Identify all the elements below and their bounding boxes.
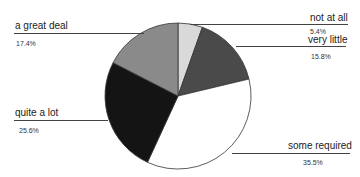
- label-quite-a-lot: quite a lot: [15, 107, 58, 118]
- pie-slices: [105, 23, 251, 169]
- label-a-great-deal: a great deal: [15, 20, 68, 31]
- label-some-required: some required: [288, 140, 352, 151]
- percent-quite-a-lot: 25.6%: [19, 127, 39, 134]
- callout-line-not-at-all: [190, 24, 348, 25]
- percent-a-great-deal: 17.4%: [16, 40, 36, 47]
- callout-line-some-required: [232, 153, 350, 154]
- label-not-at-all: not at all: [310, 12, 348, 23]
- label-very-little: very little: [308, 34, 347, 45]
- percent-some-required: 35.5%: [303, 159, 323, 166]
- callout-line-a-great-deal: [14, 33, 144, 34]
- percent-very-little: 15.8%: [311, 53, 331, 60]
- callout-line-quite-a-lot: [14, 120, 108, 121]
- callout-line-very-little: [236, 46, 346, 47]
